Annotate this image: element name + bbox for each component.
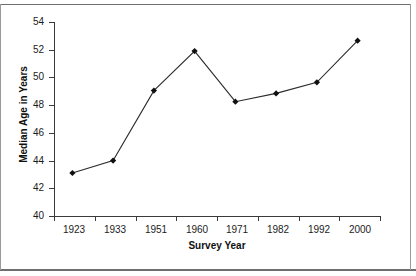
series-plot [0, 0, 416, 276]
median-age-markers [69, 38, 360, 177]
chart-figure: 5452504846444240 19231933195119601971198… [0, 0, 416, 276]
median-age-line [72, 41, 357, 173]
data-point-marker [273, 90, 279, 96]
data-point-marker [69, 170, 75, 176]
data-point-marker [110, 158, 116, 164]
